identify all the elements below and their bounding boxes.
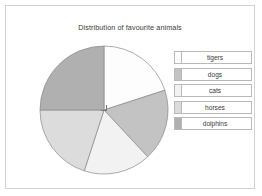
pie-chart-plot-area xyxy=(38,44,170,176)
legend-swatch-dogs xyxy=(175,69,182,80)
legend-label-horses: horses xyxy=(182,104,251,111)
legend-label-dogs: dogs xyxy=(182,71,251,78)
pie-slice-dolphins[interactable] xyxy=(40,46,104,110)
legend-swatch-horses xyxy=(175,102,182,113)
legend-label-dolphins: dolphins xyxy=(182,120,251,127)
right-angle-marker-icon xyxy=(101,105,107,111)
chart-frame: Distribution of favourite animals tigers… xyxy=(5,5,255,189)
legend-item-dogs[interactable]: dogs xyxy=(174,68,252,81)
legend-item-tigers[interactable]: tigers xyxy=(174,51,252,64)
legend-item-horses[interactable]: horses xyxy=(174,101,252,114)
legend-swatch-tigers xyxy=(175,52,182,63)
chart-title: Distribution of favourite animals xyxy=(6,23,254,32)
legend-item-dolphins[interactable]: dolphins xyxy=(174,117,252,130)
legend-swatch-dolphins xyxy=(175,118,182,129)
legend-swatch-cats xyxy=(175,85,182,96)
legend-item-cats[interactable]: cats xyxy=(174,84,252,97)
legend-label-tigers: tigers xyxy=(182,54,251,61)
chart-legend: tigers dogs cats horses dolphins xyxy=(174,51,252,134)
legend-label-cats: cats xyxy=(182,87,251,94)
